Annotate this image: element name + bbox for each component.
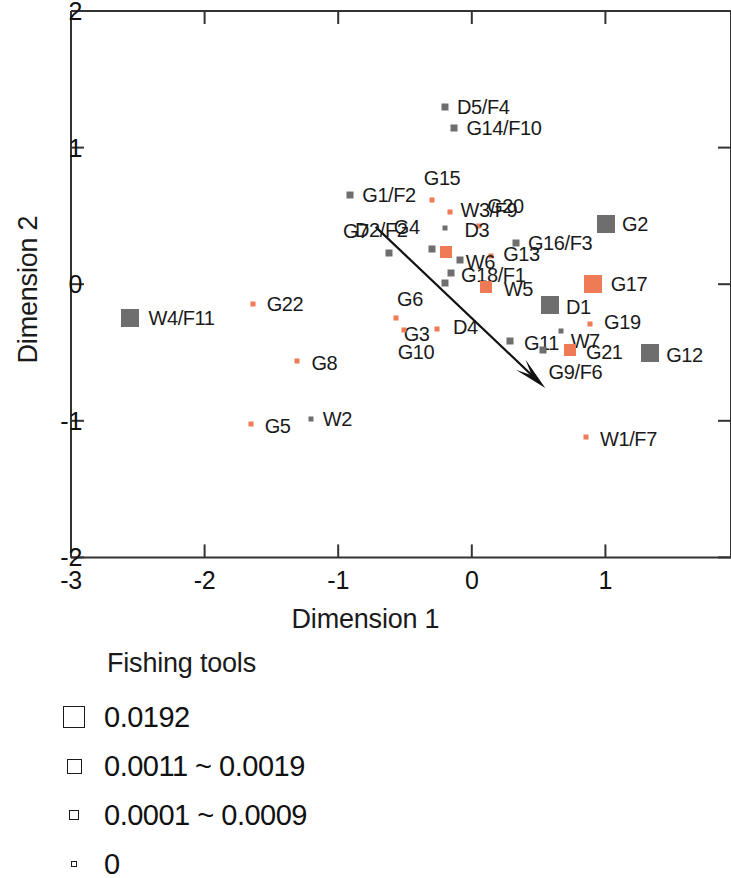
- legend: Fishing tools 0.01920.0011 ~ 0.00190.000…: [0, 648, 731, 863]
- data-point-label: W1/F7: [600, 427, 657, 450]
- data-point-marker[interactable]: [448, 269, 455, 276]
- legend-entry[interactable]: 0: [56, 841, 120, 878]
- data-point-label: D4: [453, 315, 478, 338]
- data-point-marker[interactable]: [451, 124, 458, 131]
- data-point-label: G6: [397, 287, 423, 310]
- y-axis-tick-label: 0: [68, 270, 82, 299]
- legend-entry-label: 0: [104, 848, 120, 878]
- data-point-marker[interactable]: [597, 215, 615, 233]
- legend-square-icon: [67, 759, 82, 774]
- data-point-marker[interactable]: [443, 225, 448, 230]
- data-point-marker[interactable]: [442, 279, 449, 286]
- data-point-marker[interactable]: [401, 327, 406, 332]
- data-point-label: W5: [504, 277, 533, 300]
- legend-swatch-container: [56, 810, 92, 820]
- data-point-marker[interactable]: [539, 347, 546, 354]
- data-point-marker[interactable]: [121, 309, 139, 327]
- data-point-marker[interactable]: [442, 104, 449, 111]
- legend-title: Fishing tools: [107, 648, 256, 679]
- legend-swatch-container: [56, 861, 92, 867]
- data-point-label: G2: [622, 213, 648, 236]
- data-point-marker[interactable]: [393, 315, 398, 320]
- x-axis-tick-label: -1: [327, 566, 349, 595]
- data-point-marker[interactable]: [385, 249, 392, 256]
- legend-swatch-container: [56, 706, 92, 728]
- data-point-label: G19: [604, 310, 641, 333]
- legend-square-icon: [69, 810, 79, 820]
- data-point-marker[interactable]: [308, 416, 313, 421]
- data-point-marker[interactable]: [428, 246, 435, 253]
- x-axis-tick-label: 0: [465, 566, 479, 595]
- y-axis-tick-label: 1: [68, 133, 82, 162]
- data-point-marker[interactable]: [429, 198, 434, 203]
- legend-entry[interactable]: 0.0011 ~ 0.0019: [56, 743, 305, 789]
- data-point-label: G9/F6: [549, 361, 603, 384]
- legend-entry-label: 0.0001 ~ 0.0009: [104, 799, 307, 832]
- data-point-marker[interactable]: [584, 275, 602, 293]
- legend-entry-label: 0.0011 ~ 0.0019: [104, 750, 305, 783]
- data-point-label: G20: [487, 195, 524, 218]
- data-point-label: G22: [267, 293, 304, 316]
- y-axis-title: Dimension 2: [13, 140, 44, 440]
- legend-swatch-container: [56, 759, 92, 774]
- data-point-marker[interactable]: [295, 359, 300, 364]
- y-axis-tick-label: -2: [60, 543, 82, 572]
- x-axis-tick-label: 1: [599, 566, 613, 595]
- data-point-marker[interactable]: [440, 246, 452, 258]
- data-point-marker[interactable]: [506, 337, 513, 344]
- data-point-marker[interactable]: [448, 210, 453, 215]
- data-point-label: G1/F2: [362, 183, 416, 206]
- data-point-marker[interactable]: [584, 434, 589, 439]
- legend-entry-label: 0.0192: [104, 701, 190, 734]
- legend-entry[interactable]: 0.0192: [56, 694, 190, 740]
- data-point-label: W2: [323, 407, 352, 430]
- data-point-marker[interactable]: [435, 326, 440, 331]
- data-point-marker[interactable]: [248, 422, 253, 427]
- y-axis-tick-label: 2: [68, 0, 82, 26]
- legend-square-icon: [71, 861, 77, 867]
- data-point-marker[interactable]: [588, 321, 593, 326]
- data-point-label: G10: [398, 340, 435, 363]
- data-point-label: G4: [394, 216, 420, 239]
- data-point-label: W4/F11: [148, 306, 214, 329]
- data-point-label: G8: [311, 352, 337, 375]
- data-point-label: G17: [611, 273, 648, 296]
- data-point-label: D3: [464, 219, 489, 242]
- chart-plot-area: -3-2-101-2-1012 D5/F4G14/F10G1/F2G15W3/F…: [0, 0, 731, 600]
- legend-entry[interactable]: 0.0001 ~ 0.0009: [56, 792, 307, 838]
- x-axis-tick-label: -2: [194, 566, 216, 595]
- data-point-label: G5: [265, 415, 291, 438]
- data-point-marker[interactable]: [564, 344, 576, 356]
- plot-svg-canvas: [0, 0, 731, 600]
- data-point-marker[interactable]: [347, 191, 354, 198]
- legend-square-icon: [63, 706, 85, 728]
- data-point-marker[interactable]: [541, 296, 559, 314]
- data-point-label: G15: [424, 167, 461, 190]
- data-point-marker[interactable]: [250, 302, 255, 307]
- data-point-marker[interactable]: [641, 344, 659, 362]
- y-axis-tick-label: -1: [60, 406, 82, 435]
- data-point-label: G12: [666, 344, 703, 367]
- x-axis-title: Dimension 1: [0, 604, 731, 635]
- data-point-label: G14/F10: [466, 116, 541, 139]
- data-point-marker[interactable]: [480, 281, 492, 293]
- data-point-label: G7: [343, 219, 369, 242]
- data-point-label: D1: [566, 296, 591, 319]
